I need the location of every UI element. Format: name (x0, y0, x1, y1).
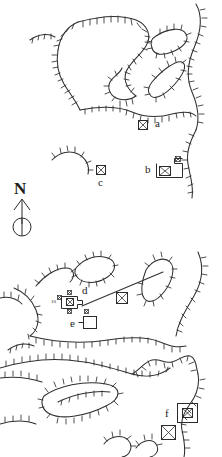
hachured-scarp-line-group-lower (0, 354, 205, 457)
earthwork-survey-map: .scarp{fill:none;stroke:#2f2f2f;stroke-w… (0, 0, 222, 457)
feature-label-d: d (82, 285, 88, 296)
feature-label-b: b (145, 164, 151, 175)
small-label-10: 10 (51, 299, 56, 304)
map-linework-canvas: .scarp{fill:none;stroke:#2f2f2f;stroke-w… (0, 0, 222, 457)
enclosure-e (79, 310, 97, 329)
enclosure-f (178, 404, 198, 423)
crossed-square-marker-a (139, 121, 148, 130)
feature-label-c: c (98, 177, 103, 188)
north-label: N (14, 180, 27, 197)
feature-label-f: f (165, 408, 169, 419)
feature-symbol-group (58, 121, 198, 440)
crossed-square-marker-c (97, 166, 106, 175)
enclosure-b (157, 157, 183, 178)
crossed-square-marker-trackway (117, 293, 128, 304)
feature-label-a: a (155, 118, 160, 129)
hachured-scarp-line-group-middle (0, 251, 208, 353)
hachured-scarp-line-group-upper (30, 4, 207, 198)
feature-label-e: e (70, 318, 75, 329)
north-arrow-icon (13, 199, 31, 236)
enclosure-d (58, 291, 83, 314)
crossed-square-marker-lower (162, 426, 176, 440)
